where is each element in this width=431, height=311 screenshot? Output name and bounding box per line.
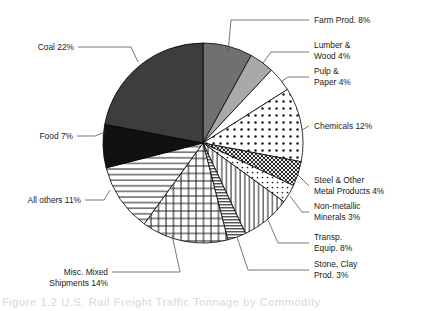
cropped-caption-strip: Figure 1.2 U.S. Rail Freight Traffic Ton…: [0, 297, 431, 311]
label-misc-mixed-line2: Shipments 14%: [49, 278, 108, 288]
label-transp-equip-line1: Transp.: [314, 232, 342, 242]
leader-line-steel: [298, 175, 309, 186]
label-steel-line2: Metal Products 4%: [314, 186, 385, 196]
leader-line-non-metallic: [290, 196, 309, 212]
label-food: Food 7%: [39, 131, 73, 141]
label-non-metallic-line2: Minerals 3%: [314, 212, 361, 222]
label-lumber-wood-line1: Lumber &: [314, 40, 351, 50]
label-steel-line1: Steel & Other: [314, 175, 364, 185]
label-pulp-paper-line1: Pulp &: [314, 66, 339, 76]
leader-line-lumber-wood: [263, 52, 309, 63]
label-chemicals: Chemicals 12%: [314, 121, 373, 131]
label-coal: Coal 22%: [38, 42, 75, 52]
leader-line-misc-mixed: [112, 235, 180, 272]
leader-line-chemicals: [302, 126, 309, 130]
leader-line-transp-equip: [268, 220, 309, 243]
pie-slices: [103, 43, 303, 243]
leader-line-coal: [78, 47, 138, 62]
leader-line-farm-prod: [228, 20, 309, 53]
leader-line-stone-clay: [237, 237, 309, 270]
label-transp-equip-line2: Equip. 8%: [314, 243, 353, 253]
leader-line-all-others: [85, 190, 110, 200]
label-misc-mixed-line1: Misc. Mixed: [64, 267, 109, 277]
label-non-metallic-line1: Non-metallic: [314, 201, 361, 211]
cropped-caption-text: Figure 1.2 U.S. Rail Freight Traffic Ton…: [2, 297, 321, 308]
leader-line-pulp-paper: [281, 77, 309, 82]
leader-line-food: [77, 132, 105, 136]
label-pulp-paper-line2: Paper 4%: [314, 77, 351, 87]
label-stone-clay-line1: Stone, Clay: [314, 259, 358, 269]
label-lumber-wood-line2: Wood 4%: [314, 51, 351, 61]
pie-chart-figure: Farm Prod. 8% Lumber & Wood 4% Pulp & Pa…: [0, 0, 431, 311]
label-all-others: All others 11%: [28, 195, 82, 205]
label-stone-clay-line2: Prod. 3%: [314, 270, 349, 280]
pie-chart-svg: Farm Prod. 8% Lumber & Wood 4% Pulp & Pa…: [0, 0, 431, 311]
label-farm-prod: Farm Prod. 8%: [314, 15, 371, 25]
